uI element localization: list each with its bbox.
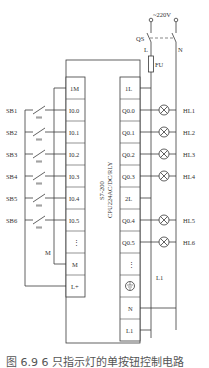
terminal-i0-0: I0.0 bbox=[69, 107, 79, 114]
terminal-q0-2: Q0.2 bbox=[122, 151, 135, 158]
terminal-q0-3: Q0.3 bbox=[122, 173, 135, 180]
plc-module: 1M I0.0 I0.1 I0.2 I0.3 I0.4 I0.5 ⋮ M L+ … bbox=[66, 60, 140, 343]
terminal-q0-4: Q0.4 bbox=[122, 217, 136, 224]
fu-label: FU bbox=[155, 61, 164, 68]
circuit-diagram: ~220V QS L N FU 1M bbox=[0, 0, 209, 368]
terminal-1l: 1L bbox=[125, 85, 132, 92]
svg-text:SB1: SB1 bbox=[6, 107, 17, 114]
svg-text:HL3: HL3 bbox=[183, 151, 195, 158]
lamp-hl3: HL3 bbox=[140, 149, 195, 159]
terminal-l-plus: L+ bbox=[71, 283, 79, 290]
terminal-1m: 1M bbox=[70, 85, 79, 92]
svg-text:SB4: SB4 bbox=[6, 173, 18, 180]
output-wiring: L1 HL1 HL2 HL3 HL4 bbox=[140, 88, 196, 330]
button-sb4: SB4 bbox=[6, 172, 66, 184]
input-wiring: M SB1 SB2 SB3 SB4 bbox=[6, 88, 66, 286]
terminal-n: N bbox=[128, 305, 133, 312]
terminal-i0-1: I0.1 bbox=[69, 129, 79, 136]
terminal-m: M bbox=[72, 261, 78, 268]
button-sb5: SB5 bbox=[6, 194, 66, 206]
plc-model-cpu: CPU224AC/DC/RLY bbox=[106, 161, 113, 218]
terminal-q0-1: Q0.1 bbox=[122, 129, 135, 136]
svg-text:HL6: HL6 bbox=[183, 239, 196, 246]
button-sb1: SB1 bbox=[6, 106, 66, 118]
l-label: L bbox=[144, 46, 148, 53]
terminal-i0-3: I0.3 bbox=[69, 173, 79, 180]
lamp-hl5: HL5 bbox=[140, 215, 195, 225]
plc-model-name: S7-200 bbox=[98, 181, 105, 200]
svg-text:SB3: SB3 bbox=[6, 151, 17, 158]
l1-wire-label: L1 bbox=[156, 274, 163, 281]
svg-text:SB2: SB2 bbox=[6, 129, 17, 136]
lamp-hl1: HL1 bbox=[140, 105, 195, 115]
terminal-q0-0: Q0.0 bbox=[122, 107, 135, 114]
terminal-i0-2: I0.2 bbox=[69, 151, 79, 158]
fuse-icon bbox=[149, 56, 154, 72]
terminal-l-icon bbox=[149, 18, 153, 22]
supply-voltage-label: ~220V bbox=[153, 11, 171, 18]
lamp-hl4: HL4 bbox=[140, 171, 196, 181]
qs-label: QS bbox=[136, 35, 145, 42]
terminal-i0-4: I0.4 bbox=[69, 195, 80, 202]
switch-qs-n-icon bbox=[172, 33, 176, 42]
terminal-more-outputs: ⋮ bbox=[128, 261, 135, 268]
svg-text:HL5: HL5 bbox=[183, 217, 195, 224]
svg-text:HL4: HL4 bbox=[183, 173, 196, 180]
svg-text:HL2: HL2 bbox=[183, 129, 195, 136]
svg-text:SB6: SB6 bbox=[6, 217, 18, 224]
terminal-2l: 2L bbox=[125, 195, 132, 202]
button-sb3: SB3 bbox=[6, 150, 66, 162]
m-label: M bbox=[45, 249, 51, 256]
button-sb2: SB2 bbox=[6, 128, 66, 140]
terminal-n-icon bbox=[174, 18, 178, 22]
switch-qs-l-icon bbox=[147, 33, 151, 42]
button-sb6: SB6 bbox=[6, 216, 66, 228]
terminal-i0-5: I0.5 bbox=[69, 217, 79, 224]
lamp-hl6: HL6 bbox=[140, 237, 196, 247]
terminal-q0-5: Q0.5 bbox=[122, 239, 135, 246]
n-label: N bbox=[178, 46, 183, 53]
terminal-more-inputs: ⋮ bbox=[73, 239, 80, 246]
lamp-hl2: HL2 bbox=[140, 127, 195, 137]
svg-text:HL1: HL1 bbox=[183, 107, 195, 114]
svg-text:SB5: SB5 bbox=[6, 195, 17, 202]
figure-caption: 图 6.9 6 只指示灯的单按钮控制电路 bbox=[6, 355, 184, 368]
terminal-l1: L1 bbox=[126, 327, 133, 334]
